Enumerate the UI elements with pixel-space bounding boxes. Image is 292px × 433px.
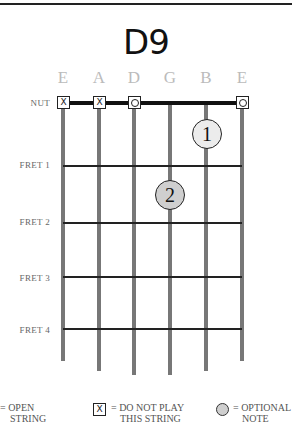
legend-mute-line2: THIS STRING — [93, 413, 203, 424]
legend-optional: = OPTIONAL NOTE — [216, 402, 292, 424]
fret-3 — [63, 276, 242, 278]
chord-title: D9 — [0, 22, 292, 62]
legend-open-line1: = OPEN — [0, 402, 46, 413]
string-d — [132, 103, 136, 375]
open-marker-d — [128, 96, 141, 109]
mute-x-icon: X — [96, 97, 102, 107]
mute-marker-a: X — [93, 96, 106, 109]
string-low-e — [61, 103, 65, 361]
legend-open: = OPEN STRING — [0, 402, 46, 424]
mute-x-icon: X — [60, 97, 66, 107]
legend-optional-line2: NOTE — [216, 413, 292, 424]
mute-marker-low-e: X — [57, 96, 70, 109]
string-name-d: D — [124, 68, 144, 88]
fret-3-label: FRET 3 — [0, 273, 50, 283]
finger-2-g-string: 2 — [155, 180, 185, 210]
fret-1-label: FRET 1 — [0, 160, 50, 170]
finger-1-b-string: 1 — [192, 119, 222, 149]
fret-2-label: FRET 2 — [0, 217, 50, 227]
fret-4-label: FRET 4 — [0, 325, 50, 335]
string-name-a: A — [89, 68, 109, 88]
legend-mute-line1: = DO NOT PLAY — [93, 402, 203, 413]
mute-x-icon: X — [93, 403, 106, 416]
fret-2 — [63, 222, 242, 224]
string-a — [97, 103, 101, 371]
string-name-b: B — [196, 68, 216, 88]
legend-open-line2: STRING — [0, 413, 46, 424]
fret-1 — [63, 165, 242, 167]
open-marker-high-e — [236, 96, 249, 109]
nut — [58, 101, 248, 105]
top-border — [0, 3, 292, 5]
string-name-low-e: E — [53, 68, 73, 88]
open-circle-icon — [131, 99, 139, 107]
nut-label: NUT — [0, 98, 50, 108]
string-high-e — [240, 103, 244, 361]
legend-mute: X = DO NOT PLAY THIS STRING — [93, 402, 203, 424]
open-circle-icon — [239, 99, 247, 107]
string-g — [168, 103, 172, 375]
fret-4 — [63, 328, 242, 330]
optional-note-icon — [216, 403, 229, 416]
string-name-g: G — [160, 68, 180, 88]
string-name-high-e: E — [232, 68, 252, 88]
